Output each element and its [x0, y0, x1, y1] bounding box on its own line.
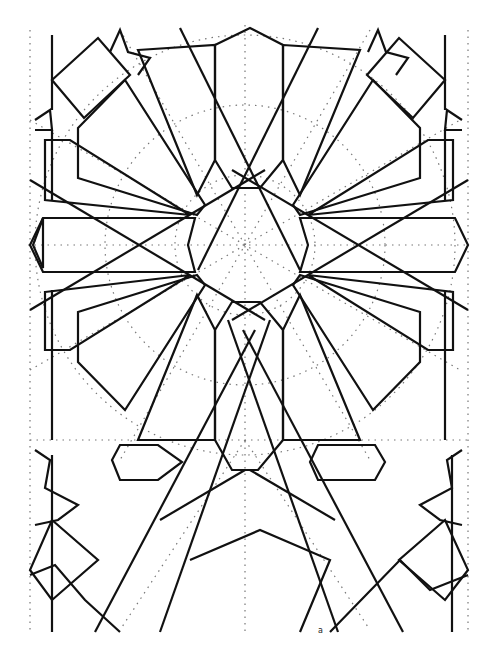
geometric-pattern-svg — [0, 0, 497, 660]
corner-label: a — [318, 626, 323, 635]
pattern-lines — [30, 28, 468, 632]
construction-lines — [28, 25, 470, 632]
pattern-figure: a — [0, 0, 497, 660]
